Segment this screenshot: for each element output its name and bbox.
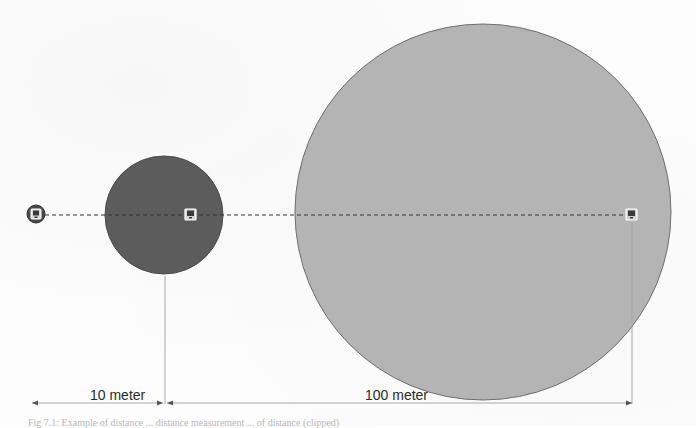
large-range-circle — [295, 24, 671, 400]
device-icon — [185, 209, 196, 220]
device-icon — [31, 209, 41, 219]
figure-caption: Fig 7.1: Example of distance ... distanc… — [28, 418, 339, 428]
dimension-label-100m: 100 meter — [365, 388, 428, 402]
dimension-label-10m: 10 meter — [90, 388, 145, 402]
device-icon — [626, 209, 637, 220]
